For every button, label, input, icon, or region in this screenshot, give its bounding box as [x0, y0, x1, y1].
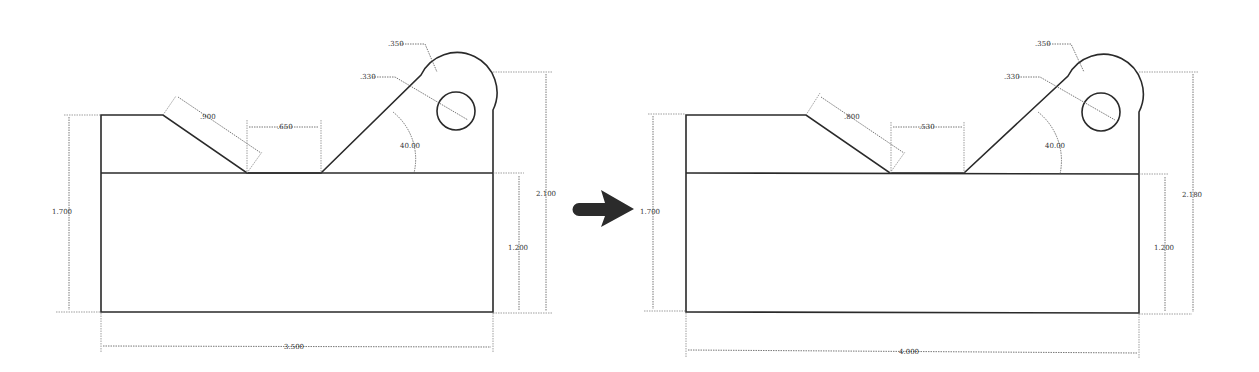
- dim-total-height: 2.180: [1182, 191, 1202, 199]
- dim-total-width: 4.000: [899, 348, 919, 356]
- hole-circle: [437, 92, 475, 130]
- dim-total-height: 2.100: [536, 190, 556, 198]
- part-outline: [686, 54, 1143, 313]
- dim-gap-width: .650: [277, 123, 293, 131]
- right-arrow-icon: [573, 190, 635, 227]
- dim-left-height: 1.700: [52, 208, 72, 216]
- dim-base-height: 1.200: [508, 244, 528, 252]
- part-outline: [101, 52, 497, 312]
- dim-left-height: 1.700: [640, 208, 660, 216]
- dim-angle: 40.00: [400, 142, 420, 150]
- dim-gap-width: .530: [919, 123, 935, 131]
- base-line: [686, 173, 1139, 174]
- drawing-canvas: .900 .650 .350 .330 40.00 1.700 1.200 2.…: [0, 0, 1259, 372]
- dim-outer-radius: .350: [1035, 40, 1051, 48]
- dim-slope-length: .900: [200, 113, 216, 121]
- dim-total-width: 3.500: [284, 343, 304, 351]
- modified-drawing: .800 .530 .350 .330 40.00 1.700 1.200 2.…: [640, 40, 1202, 358]
- original-drawing: .900 .650 .350 .330 40.00 1.700 1.200 2.…: [52, 40, 556, 352]
- dim-slope-length: .800: [844, 113, 860, 121]
- dim-hole-diameter: .330: [1004, 73, 1020, 81]
- dim-angle: 40.00: [1045, 142, 1065, 150]
- dim-hole-diameter: .330: [360, 73, 376, 81]
- hole-circle: [1082, 93, 1120, 131]
- dim-base-height: 1.200: [1154, 244, 1174, 252]
- dim-outer-radius: .350: [388, 40, 404, 48]
